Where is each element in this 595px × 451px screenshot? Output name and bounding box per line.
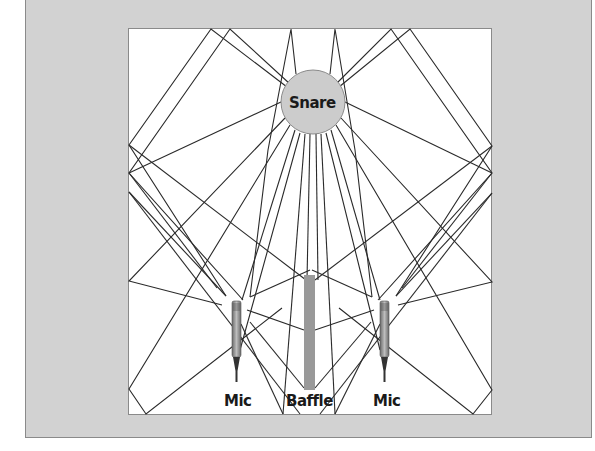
snare-drum — [0, 0, 595, 451]
mic-left-label: Mic — [224, 392, 251, 410]
mic-left-icon — [225, 296, 249, 386]
mic-right-label: Mic — [373, 392, 400, 410]
mic-right-icon — [373, 296, 397, 386]
baffle-label: Baffle — [286, 392, 333, 410]
baffle — [304, 275, 315, 390]
snare-label: Snare — [289, 94, 336, 112]
